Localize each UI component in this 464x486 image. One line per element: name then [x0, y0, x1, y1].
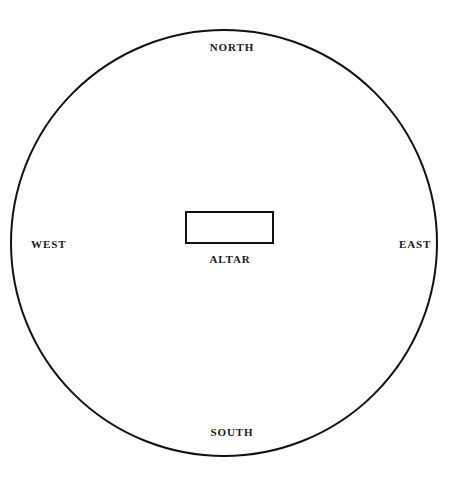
diagram-canvas	[0, 0, 464, 486]
cardinal-label-north: NORTH	[0, 42, 464, 53]
ritual-circle-diagram: NORTH EAST SOUTH WEST ALTAR	[0, 0, 464, 486]
cardinal-label-west: WEST	[31, 239, 66, 250]
altar-rectangle-outline	[186, 212, 273, 243]
altar-label: ALTAR	[186, 254, 274, 265]
cardinal-label-south: SOUTH	[0, 427, 464, 438]
cardinal-label-east: EAST	[399, 239, 431, 250]
